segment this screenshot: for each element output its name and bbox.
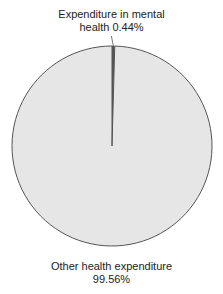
slice-other-health: [12, 46, 212, 246]
other-health-label: Other health expenditure 99.56%: [0, 260, 223, 286]
mental-health-label-line1: Expenditure in mental: [0, 8, 223, 21]
leader-line: [111, 36, 113, 46]
mental-health-label: Expenditure in mental health 0.44%: [0, 8, 223, 34]
other-health-label-line1: Other health expenditure: [0, 260, 223, 273]
pie-chart: [0, 0, 223, 294]
other-health-label-line2: 99.56%: [0, 273, 223, 286]
mental-health-label-line2: health 0.44%: [0, 21, 223, 34]
